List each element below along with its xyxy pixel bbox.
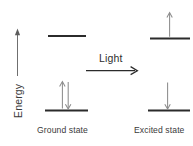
ground-state-caption: Ground state	[37, 125, 88, 135]
energy-axis-label: Energy	[12, 83, 24, 118]
light-label: Light	[99, 52, 123, 64]
energy-axis-group: Energy	[12, 29, 24, 119]
diagram-canvas: Energy Ground state Light	[0, 0, 193, 146]
excited-state-group: Excited state	[134, 13, 190, 135]
light-process-group: Light	[86, 52, 137, 75]
excited-state-electron-down-icon	[165, 83, 171, 110]
ground-state-electron-up-icon	[60, 82, 66, 109]
ground-state-group: Ground state	[37, 36, 88, 135]
excited-state-caption: Excited state	[134, 125, 185, 135]
energy-axis-arrow-head-icon	[15, 29, 20, 36]
energy-level-diagram: Energy Ground state Light	[0, 0, 193, 146]
excited-state-electron-up-icon	[167, 13, 172, 37]
ground-state-electron-down-icon	[65, 82, 71, 109]
